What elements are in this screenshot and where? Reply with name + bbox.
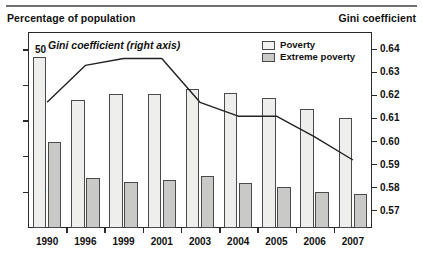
bar-extreme-poverty-2003 [201,176,215,228]
header-divider [6,5,417,7]
right-axis-tick-label: 0.58 [380,182,399,193]
bar-poverty-2006 [300,109,314,228]
x-axis-tick [104,228,105,233]
left-axis-title: Percentage of population [7,12,135,24]
bar-poverty-1996 [71,100,85,228]
bar-poverty-1999 [109,94,123,228]
right-axis-title: Gini coefficient [339,12,416,24]
bar-poverty-2004 [224,93,238,228]
bar-extreme-poverty-2006 [315,192,329,228]
bar-extreme-poverty-1996 [86,178,100,228]
right-axis-tick-label: 0.62 [380,89,399,100]
chart-figure: Percentage of population Gini coefficien… [0,0,423,261]
x-axis-tick [219,228,220,233]
bar-poverty-2007 [339,118,353,228]
right-axis-tick-label: 0.57 [380,205,399,216]
right-axis-tick [372,187,377,188]
right-axis-tick [372,118,377,119]
bar-extreme-poverty-2004 [239,183,253,228]
bar-poverty-2003 [186,89,200,228]
bar-extreme-poverty-1990 [48,142,62,228]
x-axis-tick [334,228,335,233]
x-axis-tick-label: 2007 [329,236,377,247]
bar-extreme-poverty-2005 [277,187,291,228]
bar-poverty-1990 [33,57,47,228]
bar-extreme-poverty-2007 [354,194,368,228]
right-axis-tick-label: 0.61 [380,112,399,123]
right-axis-tick [372,210,377,211]
x-axis-tick [143,228,144,233]
right-axis-tick [372,164,377,165]
right-axis-tick-label: 0.59 [380,159,399,170]
right-axis-tick [372,95,377,96]
x-axis-tick [66,228,67,233]
x-axis-tick [181,228,182,233]
right-axis-tick-label: 0.60 [380,136,399,147]
right-axis-tick [372,141,377,142]
right-axis-tick-label: 0.64 [380,43,399,54]
plot-area [28,32,372,228]
x-axis-tick [257,228,258,233]
bar-poverty-2001 [148,94,162,228]
right-axis-tick [372,72,377,73]
bar-extreme-poverty-1999 [124,182,138,228]
right-axis-tick [372,49,377,50]
x-axis-tick [296,228,297,233]
bar-extreme-poverty-2001 [163,180,177,228]
bar-poverty-2005 [262,98,276,228]
right-axis-tick-label: 0.63 [380,66,399,77]
